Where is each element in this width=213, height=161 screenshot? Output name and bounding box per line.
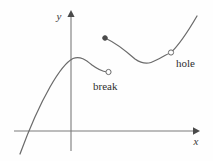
discontinuity-figure: y x break hole — [0, 0, 213, 161]
branch-closed-dot-marker — [103, 36, 108, 41]
y-axis-arrow-icon — [67, 10, 74, 17]
x-axis-label: x — [193, 135, 199, 147]
x-axis-arrow-icon — [193, 127, 200, 135]
break-open-circle-marker — [106, 69, 111, 74]
y-axis — [67, 10, 74, 151]
y-axis-label: y — [56, 10, 62, 22]
break-annotation-label: break — [93, 80, 118, 92]
left-branch-curve — [20, 58, 107, 154]
hole-open-circle-marker — [168, 50, 173, 55]
hole-annotation-label: hole — [176, 57, 195, 69]
x-axis — [14, 127, 200, 135]
